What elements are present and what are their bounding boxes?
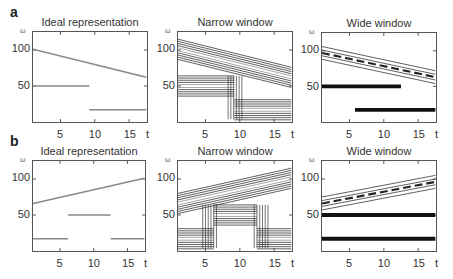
chart-title: Wide window <box>321 145 437 157</box>
y-tick-label: 100 <box>151 42 175 54</box>
y-axis-label: ω <box>20 156 25 163</box>
y-tick-label: 100 <box>151 171 175 183</box>
x-tick-label: 15 <box>411 257 427 269</box>
x-tick-label: 10 <box>376 257 392 269</box>
y-axis-label: ω <box>165 27 170 34</box>
x-tick-label: 5 <box>341 128 357 140</box>
y-tick-label: 50 <box>295 80 319 92</box>
chart-title: Ideal representation <box>32 16 148 28</box>
chart-title: Narrow window <box>177 16 293 28</box>
x-tick-label: 15 <box>267 128 283 140</box>
y-axis-label: ω <box>20 27 25 34</box>
x-axis-label: t <box>146 128 149 140</box>
y-tick-label: 50 <box>6 79 30 91</box>
x-axis-label: t <box>291 128 294 140</box>
y-axis-label: ω <box>309 28 314 35</box>
y-tick-label: 50 <box>151 79 175 91</box>
y-tick-label: 100 <box>295 171 319 183</box>
x-tick-label: 5 <box>51 257 67 269</box>
y-tick-label: 100 <box>6 171 30 183</box>
x-tick-label: 15 <box>120 257 136 269</box>
x-tick-label: 15 <box>122 128 138 140</box>
x-tick-label: 5 <box>197 257 213 269</box>
row-label-b: b <box>10 133 19 149</box>
x-tick-label: 15 <box>267 257 283 269</box>
x-tick-label: 10 <box>86 257 102 269</box>
plot-area <box>177 31 293 123</box>
plot-area <box>32 160 146 252</box>
y-axis-label: ω <box>165 156 170 163</box>
x-tick-label: 15 <box>411 128 427 140</box>
x-tick-label: 5 <box>197 128 213 140</box>
x-axis-label: t <box>435 257 438 269</box>
x-tick-label: 10 <box>376 128 392 140</box>
chart-title: Wide window <box>321 17 437 29</box>
y-tick-label: 50 <box>6 208 30 220</box>
x-axis-label: t <box>144 257 147 269</box>
plot-area <box>32 31 148 123</box>
plot-area <box>321 160 437 252</box>
row-label-a: a <box>10 4 18 20</box>
y-tick-label: 50 <box>295 208 319 220</box>
y-tick-label: 100 <box>6 42 30 54</box>
x-axis-label: t <box>291 257 294 269</box>
x-tick-label: 10 <box>87 128 103 140</box>
x-tick-label: 10 <box>232 128 248 140</box>
chart-title: Narrow window <box>177 145 293 157</box>
plot-area <box>321 32 437 123</box>
x-tick-label: 5 <box>341 257 357 269</box>
chart-title: Ideal representation <box>32 145 146 157</box>
x-tick-label: 5 <box>52 128 68 140</box>
y-tick-label: 50 <box>151 208 175 220</box>
x-axis-label: t <box>435 128 438 140</box>
x-tick-label: 10 <box>232 257 248 269</box>
plot-area <box>177 160 293 252</box>
y-tick-label: 100 <box>295 43 319 55</box>
y-axis-label: ω <box>309 156 314 163</box>
